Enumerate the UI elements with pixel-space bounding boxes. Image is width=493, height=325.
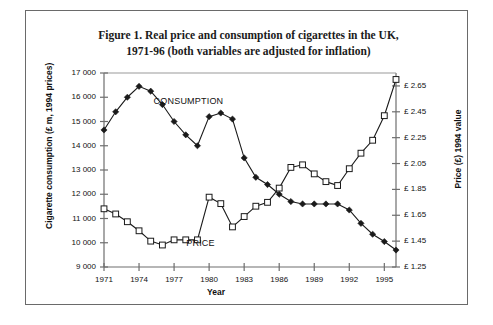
data-point-consumption xyxy=(218,110,224,116)
chart-plot-area: Cigarette consumption (£ m, 1994 prices)… xyxy=(26,11,469,306)
y-tick-label-right: £ 2.25 xyxy=(404,133,444,142)
y-tick-label-right: £ 2.65 xyxy=(404,81,444,90)
y-tick-label-left: 12 000 xyxy=(52,189,96,198)
y-tick-label-right: £ 1.25 xyxy=(404,262,444,271)
x-tick-label: 1995 xyxy=(364,275,404,284)
y-tick-label-left: 9 000 xyxy=(52,262,96,271)
y-tick-label-left: 15 000 xyxy=(52,117,96,126)
data-point-price xyxy=(124,219,130,225)
data-point-price xyxy=(148,238,154,244)
figure-frame: Figure 1. Real price and consumption of … xyxy=(25,10,468,305)
y-tick-label-right: £ 2.05 xyxy=(404,159,444,168)
data-point-consumption xyxy=(241,155,247,161)
data-point-price xyxy=(311,171,317,177)
x-tick-label: 1986 xyxy=(259,275,299,284)
data-point-consumption xyxy=(311,201,317,207)
y-axis-right-title: Price (£) 1994 value xyxy=(453,69,463,229)
data-point-price xyxy=(113,211,119,217)
data-point-price xyxy=(101,206,107,212)
y-tick-label-right: £ 2.45 xyxy=(404,107,444,116)
data-point-consumption xyxy=(206,114,212,120)
data-point-price xyxy=(381,113,387,119)
data-point-price xyxy=(136,228,142,234)
data-point-price xyxy=(288,165,294,171)
data-point-consumption xyxy=(253,174,259,180)
data-point-consumption xyxy=(288,198,294,204)
x-tick-label: 1974 xyxy=(119,275,159,284)
y-tick-label-right: £ 1.85 xyxy=(404,184,444,193)
data-point-price xyxy=(265,199,271,205)
x-tick-label: 1971 xyxy=(84,275,124,284)
data-point-consumption xyxy=(299,201,305,207)
data-point-consumption xyxy=(229,116,235,122)
data-point-price xyxy=(171,237,177,243)
x-axis-title: Year xyxy=(26,287,406,297)
data-point-price xyxy=(253,203,259,209)
data-point-price xyxy=(323,179,329,185)
y-tick-label-left: 10 000 xyxy=(52,238,96,247)
data-point-consumption xyxy=(101,127,107,133)
series-label-price: PRICE xyxy=(186,238,215,248)
data-point-price xyxy=(358,150,364,156)
x-tick-label: 1977 xyxy=(154,275,194,284)
y-tick-label-right: £ 1.65 xyxy=(404,210,444,219)
x-tick-label: 1989 xyxy=(294,275,334,284)
data-point-price xyxy=(160,242,166,248)
data-point-price xyxy=(218,201,224,207)
y-tick-label-right: £ 1.45 xyxy=(404,236,444,245)
y-tick-label-left: 11 000 xyxy=(52,214,96,223)
data-point-price xyxy=(370,137,376,143)
x-tick-label: 1992 xyxy=(329,275,369,284)
y-tick-label-left: 13 000 xyxy=(52,165,96,174)
x-tick-label: 1983 xyxy=(224,275,264,284)
x-tick-label: 1980 xyxy=(189,275,229,284)
series-label-consumption: CONSUMPTION xyxy=(154,96,224,106)
series-line-price xyxy=(104,79,396,245)
y-tick-label-left: 14 000 xyxy=(52,141,96,150)
y-tick-label-left: 16 000 xyxy=(52,92,96,101)
data-point-price xyxy=(335,183,341,189)
data-point-price xyxy=(300,162,306,168)
data-point-price xyxy=(346,166,352,172)
data-point-consumption xyxy=(323,201,329,207)
data-point-price xyxy=(241,214,247,220)
data-point-price xyxy=(206,194,212,200)
data-point-price xyxy=(230,224,236,230)
data-point-price xyxy=(393,77,399,83)
data-point-consumption xyxy=(335,201,341,207)
data-point-price xyxy=(276,185,282,191)
y-tick-label-left: 17 000 xyxy=(52,68,96,77)
